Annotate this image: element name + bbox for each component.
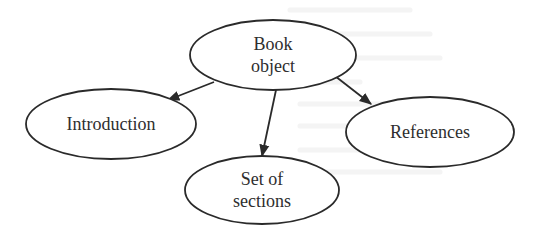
arrow-book-to-sections: [262, 90, 276, 156]
node-sections-label-line: sections: [233, 190, 291, 212]
node-book-label-line: object: [251, 55, 295, 77]
node-introduction-label-line: Introduction: [67, 113, 156, 135]
node-references-label-line: References: [390, 121, 470, 143]
node-book-label-line: Book: [251, 33, 295, 55]
node-book-label: Bookobject: [251, 33, 295, 77]
node-references-label: References: [390, 121, 470, 143]
node-sections-label: Set ofsections: [233, 168, 291, 212]
node-introduction-label: Introduction: [67, 113, 156, 135]
node-sections-label-line: Set of: [233, 168, 291, 190]
arrow-book-to-introduction: [168, 82, 214, 100]
